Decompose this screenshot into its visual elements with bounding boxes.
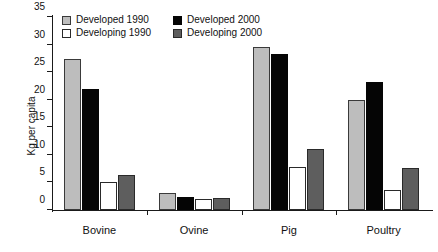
y-axis-tick-label: 15 — [34, 112, 45, 122]
x-axis-separator-tick — [242, 210, 243, 215]
y-axis-tick — [47, 154, 52, 155]
legend-swatch-icon — [173, 16, 182, 25]
bar-pig-developed-1990 — [253, 47, 270, 210]
y-axis-tick — [47, 44, 52, 45]
x-axis-category-label-ovine: Ovine — [180, 224, 209, 236]
y-axis-tick — [47, 181, 52, 182]
bar-bovine-developed-1990 — [64, 59, 81, 210]
x-axis-line — [52, 210, 433, 211]
chart-legend: Developed 1990Developed 2000Developing 1… — [62, 15, 262, 38]
x-axis-category-label-bovine: Bovine — [83, 224, 117, 236]
y-axis-tick — [47, 71, 52, 72]
bar-bovine-developed-2000 — [82, 89, 99, 210]
y-axis-tick — [47, 209, 52, 210]
legend-swatch-icon — [62, 16, 71, 25]
bar-bovine-developing-1990 — [100, 182, 117, 210]
legend-swatch-icon — [173, 29, 182, 38]
bar-poultry-developed-1990 — [348, 100, 365, 210]
y-axis-tick-label: 35 — [34, 2, 45, 12]
legend-item-developing-2000: Developing 2000 — [173, 28, 262, 38]
x-axis-category-label-poultry: Poultry — [367, 224, 401, 236]
y-axis-tick — [47, 99, 52, 100]
y-axis-tick-label: 0 — [39, 195, 45, 205]
bar-ovine-developing-2000 — [213, 198, 230, 210]
y-axis-tick-label: 25 — [34, 57, 45, 67]
y-axis-tick-label: 30 — [34, 30, 45, 40]
legend-label: Developed 1990 — [76, 15, 149, 25]
bar-ovine-developed-1990 — [159, 193, 176, 210]
legend-label: Developing 2000 — [187, 28, 262, 38]
legend-label: Developing 1990 — [76, 28, 151, 38]
bar-pig-developing-1990 — [289, 167, 306, 210]
legend-swatch-icon — [62, 29, 71, 38]
legend-label: Developed 2000 — [187, 15, 260, 25]
x-axis-category-label-pig: Pig — [281, 224, 297, 236]
y-axis-tick-label: 20 — [34, 85, 45, 95]
legend-item-developed-2000: Developed 2000 — [173, 15, 262, 25]
x-axis-separator-tick — [336, 210, 337, 215]
plot-area: 05101520253035 — [52, 17, 431, 210]
bar-poultry-developed-2000 — [366, 82, 383, 210]
legend-item-developed-1990: Developed 1990 — [62, 15, 151, 25]
legend-item-developing-1990: Developing 1990 — [62, 28, 151, 38]
bar-poultry-developing-1990 — [384, 190, 401, 210]
bar-ovine-developed-2000 — [177, 197, 194, 210]
bar-pig-developed-2000 — [271, 54, 288, 210]
chart-figure: Kg per capita 05101520253035 Developed 1… — [0, 0, 438, 252]
y-axis-tick — [47, 126, 52, 127]
x-axis-separator-tick — [147, 210, 148, 215]
bar-poultry-developing-2000 — [402, 168, 419, 210]
bar-pig-developing-2000 — [307, 149, 324, 210]
bar-ovine-developing-1990 — [195, 199, 212, 210]
y-axis-tick — [47, 16, 52, 17]
y-axis-tick-label: 10 — [34, 140, 45, 150]
bar-bovine-developing-2000 — [118, 175, 135, 210]
y-axis-tick-label: 5 — [39, 167, 45, 177]
